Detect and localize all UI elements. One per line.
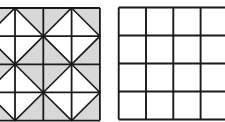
- grids-scene: [0, 0, 225, 122]
- figure-canvas: [0, 0, 225, 122]
- blank-grid-figure: [119, 8, 225, 120]
- quilt-grid-figure: [0, 8, 100, 121]
